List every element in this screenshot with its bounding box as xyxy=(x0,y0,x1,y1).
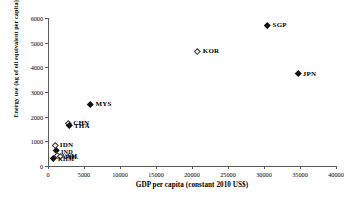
x-tick-label: 15000 xyxy=(148,171,163,178)
data-point-label: THA xyxy=(74,122,90,130)
x-tick-mark xyxy=(336,166,337,169)
data-point-label: JPN xyxy=(303,70,316,78)
y-tick-label: 1000 xyxy=(31,138,43,145)
y-tick-label: 5000 xyxy=(31,39,43,46)
x-tick-mark xyxy=(228,166,229,169)
y-tick-label: 4000 xyxy=(31,64,43,71)
data-point-label: SGP xyxy=(273,21,287,29)
x-tick-mark xyxy=(48,166,49,169)
y-tick-mark xyxy=(45,117,48,118)
data-point-label: KHM xyxy=(58,154,74,161)
x-tick-mark xyxy=(84,166,85,169)
x-tick-mark xyxy=(120,166,121,169)
x-tick-label: 40000 xyxy=(328,171,343,178)
x-tick-mark xyxy=(264,166,265,169)
data-point-label: MYS xyxy=(95,100,111,108)
y-tick-mark xyxy=(45,43,48,44)
x-tick-label: 0 xyxy=(46,171,49,178)
y-tick-mark xyxy=(45,141,48,142)
y-tick-label: 2000 xyxy=(31,113,43,120)
x-tick-label: 20000 xyxy=(184,171,199,178)
x-tick-label: 5000 xyxy=(78,171,90,178)
y-tick-label: 0 xyxy=(40,163,43,170)
data-point-label: KOR xyxy=(203,47,220,55)
hollow-diamond-marker-icon xyxy=(195,48,201,54)
y-tick-label: 3000 xyxy=(31,89,43,96)
y-tick-mark xyxy=(45,67,48,68)
filled-diamond-marker-icon xyxy=(66,123,72,129)
x-tick-label: 10000 xyxy=(112,171,127,178)
filled-diamond-marker-icon xyxy=(87,101,93,107)
plot-area: 0100020003000400050006000 05000100001500… xyxy=(48,18,336,166)
x-tick-label: 35000 xyxy=(292,171,307,178)
x-tick-mark xyxy=(192,166,193,169)
x-tick-mark xyxy=(300,166,301,169)
x-tick-label: 30000 xyxy=(256,171,271,178)
filled-diamond-marker-icon xyxy=(264,22,270,28)
y-tick-label: 6000 xyxy=(31,15,43,22)
scatter-chart-figure: Energy use (kg of oil equivalent per cap… xyxy=(0,0,347,200)
y-tick-mark xyxy=(45,92,48,93)
x-tick-label: 25000 xyxy=(220,171,235,178)
x-tick-mark xyxy=(156,166,157,169)
x-axis-title: GDP per capita (constant 2010 US$) xyxy=(48,181,336,189)
y-tick-mark xyxy=(45,18,48,19)
filled-diamond-marker-icon xyxy=(295,70,301,76)
